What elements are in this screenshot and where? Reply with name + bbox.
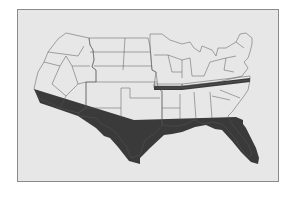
extrusion-shadow (34, 78, 259, 164)
region-midwest-northeast[interactable] (150, 33, 252, 86)
us-region-map (0, 0, 295, 198)
